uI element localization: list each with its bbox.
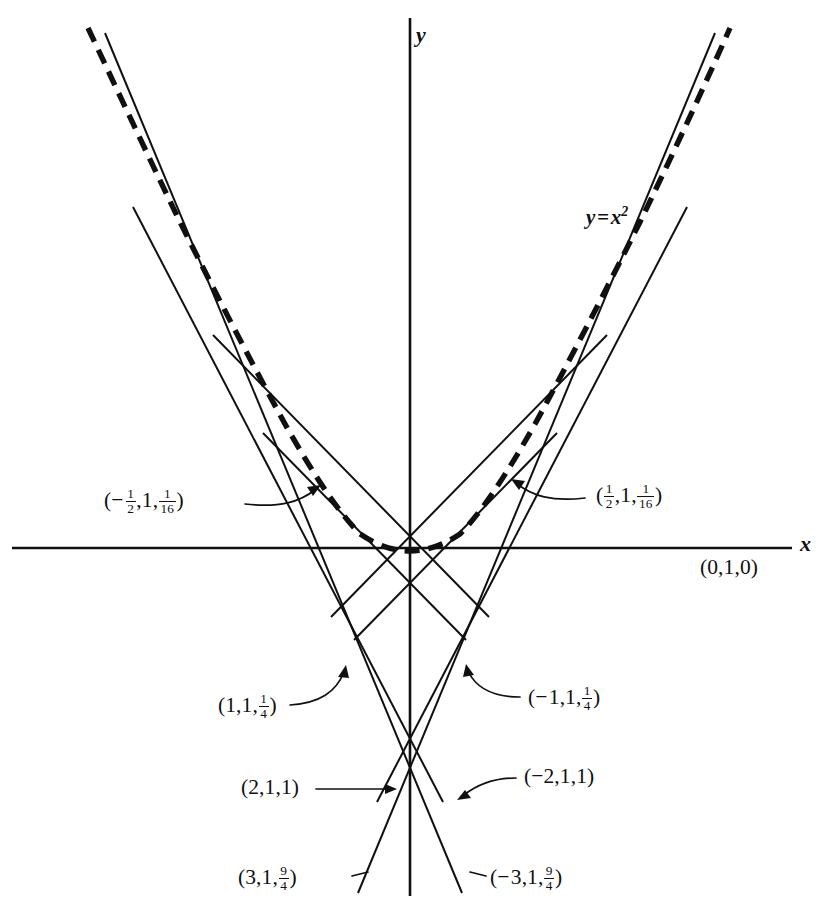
curve-eq-x: x <box>611 205 622 229</box>
curve-eq-y: y <box>586 205 595 229</box>
fraction-nine-quarters: 94 <box>544 864 554 892</box>
leader-neg-three <box>470 872 486 876</box>
paren-close: ) <box>593 685 600 709</box>
label-tangent-pos-half: (12,1,116) <box>596 482 662 510</box>
minus-sign: − <box>535 685 547 709</box>
coord-lead: 3,1, <box>245 865 278 889</box>
origin-dual-coordinate-label: (0,1,0) <box>700 557 758 579</box>
y-axis-label: y <box>416 24 426 46</box>
label-tangent-neg-two: (−2,1,1) <box>524 766 594 788</box>
fraction-nine-quarters: 94 <box>279 864 289 892</box>
fraction-one-sixteenth: 116 <box>637 482 654 510</box>
fraction-one-quarter: 14 <box>259 692 269 720</box>
leaders-group <box>245 479 585 876</box>
paren-close: ) <box>655 483 662 507</box>
curve-eq-exponent: 2 <box>621 204 628 219</box>
paren-open: ( <box>596 483 603 507</box>
curve-eq-equals: = <box>597 205 609 229</box>
leader-neg-two <box>464 778 516 795</box>
label-tangent-pos-one: (1,1,14) <box>218 692 277 720</box>
leader-arrowhead-neg-one <box>463 664 474 677</box>
paren-close: ) <box>289 865 296 889</box>
paren-close: ) <box>269 693 276 717</box>
paren-close: ) <box>555 865 562 889</box>
coord-lead: 3,1, <box>511 865 544 889</box>
leader-arrowhead-pos-two <box>385 784 397 794</box>
fraction-one-sixteenth: 116 <box>159 487 176 515</box>
curve-equation-label: y = x2 <box>586 205 628 228</box>
middle-separator: ,1, <box>615 483 637 507</box>
coord-lead: 1,1, <box>549 685 582 709</box>
label-tangent-pos-three: (3,1,94) <box>238 864 297 892</box>
label-tangent-neg-three: (−3,1,94) <box>490 864 562 892</box>
tangent-line-pos-one <box>331 335 607 617</box>
leader-pos-one <box>290 672 344 705</box>
axes-group <box>12 18 792 896</box>
minus-sign: − <box>111 488 123 512</box>
label-tangent-pos-two: (2,1,1) <box>241 777 299 799</box>
leader-neg-one <box>468 671 520 697</box>
label-tangent-neg-half: (−12,1,116) <box>104 487 184 515</box>
label-tangent-neg-one: (−1,1,14) <box>528 684 600 712</box>
leader-arrowhead-pos-one <box>338 665 349 678</box>
x-axis-label: x <box>800 533 811 555</box>
fraction-one-quarter: 14 <box>582 684 592 712</box>
paren-close: ) <box>176 488 183 512</box>
fraction-one-half: 12 <box>126 487 136 515</box>
middle-separator: ,1, <box>136 488 158 512</box>
fraction-one-half: 12 <box>604 482 614 510</box>
parabola-tangents-figure <box>0 0 837 917</box>
tangent-line-neg-three <box>105 33 462 893</box>
minus-sign: − <box>497 865 509 889</box>
figure-root: y x (0,1,0) y = x2 (−12,1,116) (12,1,116… <box>0 0 837 917</box>
tangent-line-neg-one <box>213 335 489 617</box>
coord-lead: 1,1, <box>225 693 258 717</box>
